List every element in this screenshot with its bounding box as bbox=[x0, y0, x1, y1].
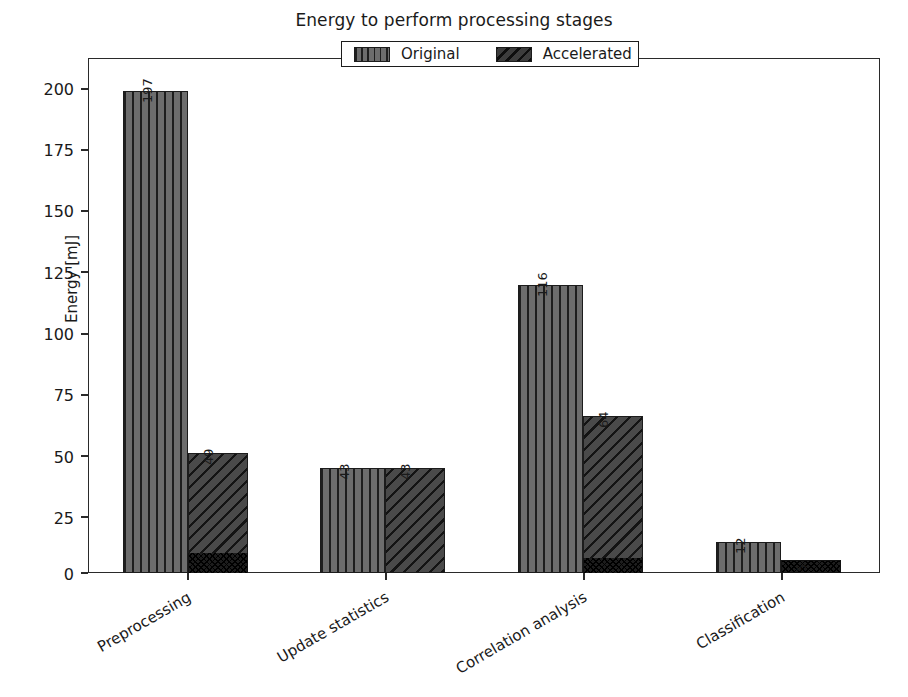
bar-original-classification bbox=[716, 542, 781, 573]
y-tick-label-125: 125 bbox=[20, 264, 74, 283]
bar-value-accelerated-preprocessing: 49 bbox=[201, 448, 216, 465]
bar-original-correlation-analysis bbox=[518, 285, 583, 573]
x-tick-mark-classification bbox=[781, 573, 783, 580]
y-tick-label-75: 75 bbox=[20, 386, 74, 405]
y-tick-label-100: 100 bbox=[20, 325, 74, 344]
legend-label-original: Original bbox=[401, 45, 460, 63]
y-tick-mark-75 bbox=[81, 394, 88, 396]
bar-value-original-preprocessing: 197 bbox=[140, 78, 155, 103]
bar-accelerated-correlation-analysis bbox=[583, 416, 643, 573]
bar-accelerated-update-statistics bbox=[385, 468, 445, 573]
y-tick-label-0: 0 bbox=[20, 565, 74, 584]
y-tick-mark-125 bbox=[81, 271, 88, 273]
x-tick-label-update-statistics: Update statistics bbox=[266, 588, 392, 671]
bar-value-accelerated-correlation-analysis: 64 bbox=[596, 411, 611, 428]
y-tick-label-150: 150 bbox=[20, 202, 74, 221]
y-tick-label-50: 50 bbox=[20, 448, 74, 467]
legend-entry-original: Original bbox=[354, 42, 460, 66]
x-tick-mark-preprocessing bbox=[187, 573, 189, 580]
y-tick-label-25: 25 bbox=[20, 509, 74, 528]
bar-value-original-correlation-analysis: 116 bbox=[535, 272, 550, 297]
legend-swatch-accelerated-icon bbox=[496, 47, 532, 62]
bar-original-preprocessing bbox=[123, 91, 188, 573]
y-tick-mark-100 bbox=[81, 333, 88, 335]
x-tick-label-preprocessing: Preprocessing bbox=[81, 588, 194, 664]
bar-base-accelerated-correlation-analysis bbox=[583, 558, 643, 573]
x-tick-mark-correlation-analysis bbox=[583, 573, 585, 580]
legend-swatch-original-icon bbox=[354, 47, 390, 62]
y-tick-mark-150 bbox=[81, 210, 88, 212]
chart-legend: Original Accelerated bbox=[341, 41, 639, 67]
legend-entry-accelerated: Accelerated bbox=[496, 42, 632, 66]
y-tick-mark-0 bbox=[81, 572, 88, 574]
x-tick-mark-update-statistics bbox=[385, 573, 387, 580]
x-tick-label-classification: Classification bbox=[689, 588, 788, 656]
bar-value-original-update-statistics: 43 bbox=[337, 463, 352, 480]
y-tick-mark-50 bbox=[81, 455, 88, 457]
legend-label-accelerated: Accelerated bbox=[543, 45, 632, 63]
x-tick-label-correlation-analysis: Correlation analysis bbox=[446, 588, 590, 682]
chart-figure: Energy to perform processing stages Ener… bbox=[0, 0, 908, 697]
y-tick-label-175: 175 bbox=[20, 141, 74, 160]
y-tick-mark-200 bbox=[81, 88, 88, 90]
y-tick-mark-25 bbox=[81, 516, 88, 518]
y-tick-label-200: 200 bbox=[20, 80, 74, 99]
bar-value-accelerated-classification: 5 bbox=[794, 564, 809, 572]
bar-value-accelerated-update-statistics: 43 bbox=[398, 463, 413, 480]
y-tick-mark-175 bbox=[81, 149, 88, 151]
bar-original-update-statistics bbox=[320, 468, 385, 573]
chart-title: Energy to perform processing stages bbox=[0, 10, 908, 30]
bar-base-accelerated-preprocessing bbox=[188, 553, 248, 573]
bar-value-original-classification: 12 bbox=[733, 537, 748, 554]
bar-accelerated-classification bbox=[781, 560, 841, 573]
